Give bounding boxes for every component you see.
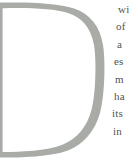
body-text-line: es <box>111 53 138 70</box>
body-text-line: its <box>111 105 138 122</box>
body-text-column: wi of a es m ha its in <box>111 1 138 159</box>
body-text-line: a <box>111 36 138 53</box>
body-text-line: wi <box>111 1 138 18</box>
body-text-line: ha <box>111 88 138 105</box>
body-text-line: m <box>111 71 138 88</box>
body-text-line: of <box>111 18 138 35</box>
drop-cap-glyph <box>0 2 104 157</box>
body-text-line: in <box>111 123 138 140</box>
book-page-crop: wi of a es m ha its in <box>0 0 138 160</box>
